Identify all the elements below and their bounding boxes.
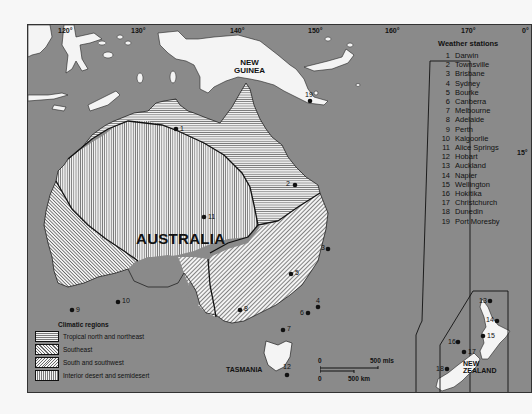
- station-marker-label: 18: [436, 365, 444, 372]
- vertical-lines-swatch-icon: [35, 370, 59, 381]
- station-row: 12Hobart: [438, 152, 530, 161]
- station-row: 1Darwin: [438, 51, 530, 60]
- station-row: 14Napier: [438, 171, 530, 180]
- station-row: 15Wellington: [438, 180, 530, 189]
- station-row: 5Bourke: [438, 88, 530, 97]
- station-row: 18Dunedin: [438, 207, 530, 216]
- station-row: 2Townsville: [438, 60, 530, 69]
- station-row: 19Port Moresby: [438, 217, 530, 226]
- legend-item-tropical: Tropical north and northeast: [30, 330, 230, 343]
- station-marker-label: 16: [448, 338, 456, 345]
- legend-item-southeast: Southeast: [30, 343, 230, 356]
- weather-stations-list: Weather stations 1Darwin 2Townsville 3Br…: [438, 39, 530, 226]
- scale-line: [320, 366, 400, 374]
- station-row: 16Hokitika: [438, 189, 530, 198]
- station-row: 4Sydney: [438, 79, 530, 88]
- horizontal-lines-swatch-icon: [35, 331, 59, 342]
- climatic-regions-legend: Climatic regions Tropical north and nort…: [30, 321, 230, 382]
- scale-miles-label: 500 mls: [370, 357, 394, 364]
- scale-bar: 0 500 mls 0 500 km: [318, 357, 408, 387]
- station-marker-label: 15: [487, 332, 495, 339]
- station-row: 7Melbourne: [438, 106, 530, 115]
- station-marker-label: 5: [295, 269, 299, 276]
- legend-title: Climatic regions: [58, 321, 230, 328]
- station-marker-label: 10: [122, 297, 130, 304]
- station-row: 10Kalgoorlie: [438, 134, 530, 143]
- station-marker-label: 2: [286, 180, 290, 187]
- station-marker-label: 8: [244, 305, 248, 312]
- station-row: 13Auckland: [438, 161, 530, 170]
- station-row: 6Canberra: [438, 97, 530, 106]
- legend-item-southwest: South and southwest: [30, 356, 230, 369]
- weather-stations-title: Weather stations: [438, 39, 530, 48]
- legend-item-interior: Interior desert and semidesert: [30, 369, 230, 382]
- station-marker-label: 9: [76, 306, 80, 313]
- station-marker-label: 12: [283, 363, 291, 370]
- station-row: 8Adelaide: [438, 115, 530, 124]
- station-marker-label: 14: [486, 316, 494, 323]
- scale-zero-miles: 0: [318, 357, 322, 364]
- map-frame: 120° 130° 140° 150° 160° 170° 0° 15° NEW…: [27, 24, 532, 393]
- station-row: 3Brisbane: [438, 69, 530, 78]
- station-marker-label: 13: [479, 297, 487, 304]
- scale-zero-km: 0: [318, 375, 322, 382]
- diagonal-lines-swatch-icon: [35, 344, 59, 355]
- station-marker-label: 7: [287, 325, 291, 332]
- station-marker-label: 19: [305, 91, 313, 98]
- scale-km-label: 500 km: [348, 375, 370, 382]
- station-marker-label: 17: [468, 348, 476, 355]
- station-row: 9Perth: [438, 125, 530, 134]
- station-marker-label: 3: [321, 244, 325, 251]
- station-marker-label: 4: [316, 297, 320, 304]
- station-marker-label: 6: [300, 309, 304, 316]
- station-row: 11Alice Springs: [438, 143, 530, 152]
- fine-diagonal-lines-swatch-icon: [35, 357, 59, 368]
- station-marker-label: 1: [180, 125, 184, 132]
- station-marker-label: 11: [208, 213, 215, 220]
- station-row: 17Christchurch: [438, 198, 530, 207]
